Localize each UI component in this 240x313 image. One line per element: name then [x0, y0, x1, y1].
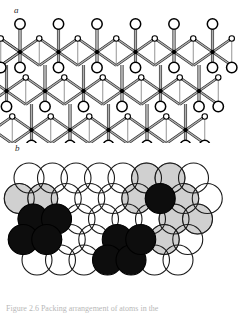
atom-small-0-0: [0, 36, 3, 41]
panel-a-lattice-diagram: [0, 8, 240, 143]
sphere-black-1-6: [145, 184, 175, 214]
atom-small-2-3: [87, 114, 92, 119]
atom-node-2-2: [68, 128, 72, 132]
atom-large-top-1: [53, 19, 63, 29]
atom-large-lower-0-0: [15, 62, 25, 72]
sphere-open-4-6: [163, 245, 193, 275]
atom-large-left-0: [0, 62, 6, 72]
atom-large-lower-1-0: [1, 101, 11, 111]
atom-large-lower-2-2: [65, 140, 75, 143]
atom-node-1-4: [158, 89, 162, 93]
atom-small-1-3: [100, 75, 105, 80]
atom-node-0-2: [95, 50, 99, 54]
bond-ne-0-1: [59, 39, 78, 53]
atom-large-lower-1-4: [155, 101, 165, 111]
bond-ne-2-3: [109, 117, 128, 131]
bond-nw-1-5: [180, 78, 199, 92]
atom-large-lower-0-2: [92, 62, 102, 72]
atom-node-0-4: [172, 50, 176, 54]
bond-ne-0-2: [97, 39, 116, 53]
atom-node-0-3: [133, 50, 137, 54]
bond-ne-0-5: [213, 39, 232, 53]
atom-node-1-1: [43, 89, 47, 93]
figure-caption: Figure 2.6 Packing arrangement of atoms …: [6, 304, 238, 313]
atom-large-lower-2-1: [26, 140, 36, 143]
bond-nw-0-2: [78, 39, 97, 53]
atom-large-lower-0-3: [130, 62, 140, 72]
bond-nw-0-1: [39, 39, 58, 53]
bond-edge-nw: [1, 39, 20, 53]
bond-ne-1-1: [45, 78, 64, 92]
atom-node-1-0: [4, 89, 8, 93]
bond-ne-1-2: [84, 78, 103, 92]
bond-ne-0-4: [174, 39, 193, 53]
atom-small-1-4: [139, 75, 144, 80]
atom-node-1-2: [81, 89, 85, 93]
atom-large-right-1: [213, 101, 223, 111]
atom-small-2-1: [10, 114, 15, 119]
atom-small-2-6: [202, 114, 207, 119]
bond-ne-2-1: [32, 117, 51, 131]
bond-nw-1-3: [103, 78, 122, 92]
atom-node-2-5: [183, 128, 187, 132]
atom-node-1-3: [120, 89, 124, 93]
atom-node-2-1: [29, 128, 33, 132]
atom-small-1-6: [216, 75, 221, 80]
bond-ne-0-0: [20, 39, 39, 53]
bond-nw-2-4: [128, 117, 147, 131]
atom-large-top-5: [207, 19, 217, 29]
atom-large-lower-2-5: [180, 140, 190, 143]
bond-ne-1-4: [161, 78, 180, 92]
atom-small-2-5: [164, 114, 169, 119]
bond-nw-2-2: [51, 117, 70, 131]
atom-large-lower-1-3: [117, 101, 127, 111]
atom-large-top-0: [15, 19, 25, 29]
bond-ne-1-0: [7, 78, 26, 92]
bond-ne-2-4: [147, 117, 166, 131]
sphere-black-3-5: [126, 225, 156, 255]
atom-node-0-1: [56, 50, 60, 54]
bond-ne-1-3: [122, 78, 141, 92]
atom-large-lower-1-5: [194, 101, 204, 111]
panel-b-sphere-packing-diagram: [0, 152, 240, 312]
figure-container: a b Figure 2.6 Packing arrangement of at…: [0, 0, 240, 313]
atom-small-0-1: [37, 36, 42, 41]
atom-small-0-3: [114, 36, 119, 41]
atom-small-2-2: [48, 114, 53, 119]
atom-node-2-3: [106, 128, 110, 132]
atom-small-0-4: [152, 36, 157, 41]
bond-nw-2-3: [89, 117, 108, 131]
panel-a-bond-layer: [0, 26, 232, 143]
bond-nw-0-4: [155, 39, 174, 53]
bond-nw-0-3: [116, 39, 135, 53]
atom-large-lower-1-2: [78, 101, 88, 111]
atom-small-2-4: [125, 114, 130, 119]
bond-nw-0-5: [193, 39, 212, 53]
atom-small-0-5: [191, 36, 196, 41]
atom-large-top-2: [92, 19, 102, 29]
bond-ne-0-3: [136, 39, 155, 53]
atom-small-1-1: [23, 75, 28, 80]
atom-large-lower-0-4: [169, 62, 179, 72]
atom-large-top-4: [169, 19, 179, 29]
atom-large-top-3: [130, 19, 140, 29]
atom-node-1-5: [197, 89, 201, 93]
atom-large-lower-0-5: [207, 62, 217, 72]
atom-small-0-6: [229, 36, 234, 41]
bond-nw-2-5: [166, 117, 185, 131]
bond-ne-1-5: [199, 78, 218, 92]
atom-large-lower-0-1: [53, 62, 63, 72]
atom-large-right-0: [227, 62, 237, 72]
atom-large-lower-2-3: [103, 140, 113, 143]
atom-large-lower-2-4: [142, 140, 152, 143]
atom-small-1-2: [62, 75, 67, 80]
bond-ne-2-5: [186, 117, 205, 131]
atom-large-lower-1-1: [40, 101, 50, 111]
atom-node-0-5: [210, 50, 214, 54]
bond-nw-1-2: [64, 78, 83, 92]
sphere-open-1-3: [75, 184, 105, 214]
bond-nw-1-4: [141, 78, 160, 92]
bond-nw-1-1: [26, 78, 45, 92]
atom-node-2-4: [145, 128, 149, 132]
bond-nw-2-1: [12, 117, 31, 131]
